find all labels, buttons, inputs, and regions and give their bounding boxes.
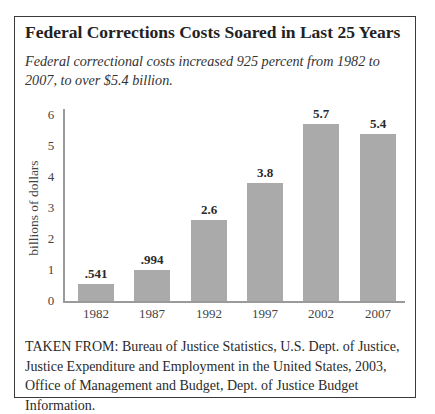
y-tick-label: 0 xyxy=(44,294,58,308)
bar-value-label: 5.7 xyxy=(296,107,346,121)
bar-value-label: 5.4 xyxy=(353,117,403,131)
y-tick-label: 6 xyxy=(44,108,58,122)
bar-value-label: .541 xyxy=(71,267,121,281)
x-tick-label: 1992 xyxy=(184,307,234,321)
bar-value-label: .994 xyxy=(127,253,177,267)
bar-2002 xyxy=(303,124,339,301)
bar-1992 xyxy=(191,220,227,301)
x-tick-label: 1982 xyxy=(71,307,121,321)
x-tick-label: 1997 xyxy=(240,307,290,321)
bar-1982 xyxy=(78,284,114,301)
source-note: TAKEN FROM: Bureau of Justice Statistics… xyxy=(25,337,415,414)
bar-1997 xyxy=(247,183,283,301)
y-axis-line xyxy=(63,109,65,302)
x-tick-label: 1987 xyxy=(127,307,177,321)
y-tick-label: 3 xyxy=(44,201,58,215)
x-axis-line xyxy=(63,301,405,303)
bar-1987 xyxy=(134,270,170,301)
bar-value-label: 2.6 xyxy=(184,203,234,217)
y-tick-label: 4 xyxy=(44,170,58,184)
bar-2007 xyxy=(360,134,396,301)
x-tick-label: 2002 xyxy=(296,307,346,321)
y-tick-label: 2 xyxy=(44,232,58,246)
bar-value-label: 3.8 xyxy=(240,166,290,180)
y-axis-label: billions of dollars xyxy=(26,160,42,255)
x-tick-label: 2007 xyxy=(353,307,403,321)
y-tick-label: 1 xyxy=(44,263,58,277)
y-tick-label: 5 xyxy=(44,139,58,153)
